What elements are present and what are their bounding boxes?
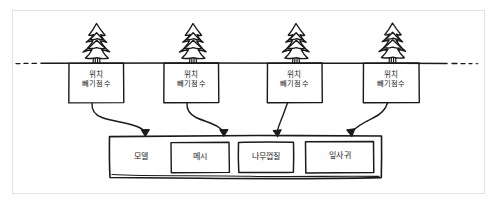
model-part-box[interactable] bbox=[171, 142, 229, 173]
arrow-tree-2-to-model bbox=[187, 103, 228, 136]
pine-tree-icon bbox=[180, 24, 207, 64]
pine-tree-icon bbox=[379, 23, 406, 63]
tree-node-box[interactable] bbox=[164, 63, 219, 103]
diagram-canvas: 위치 빼기점수 위치 빼기점수 위치 빼기점수 위치 빼기점수 모델 메시 나무… bbox=[0, 0, 497, 204]
arrow-tree-3-to-model bbox=[273, 103, 287, 137]
tree-node-box[interactable] bbox=[69, 63, 124, 103]
tree-node-box[interactable] bbox=[267, 63, 322, 103]
pine-tree-icon bbox=[83, 24, 110, 64]
arrow-tree-4-to-model bbox=[347, 103, 388, 137]
arrow-tree-1-to-model bbox=[92, 103, 149, 136]
pine-tree-icon bbox=[283, 24, 310, 64]
tree-node-box[interactable] bbox=[363, 63, 419, 103]
diagram-artwork bbox=[0, 0, 497, 204]
model-part-box[interactable] bbox=[306, 142, 374, 173]
model-part-box[interactable] bbox=[238, 142, 293, 173]
